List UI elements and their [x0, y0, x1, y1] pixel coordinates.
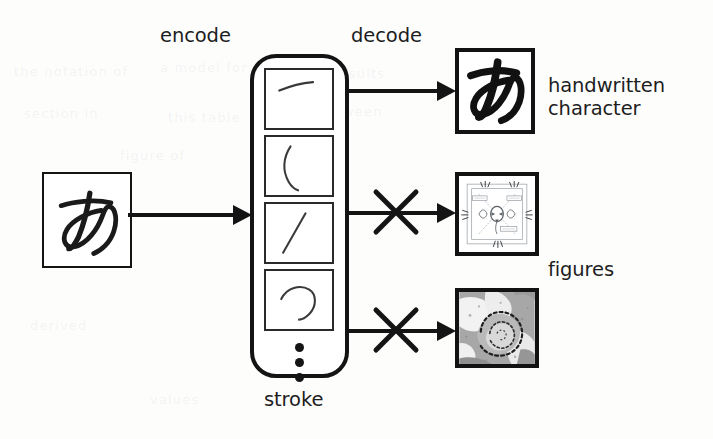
grayscale-satellite-figure	[459, 292, 535, 364]
arrow-decode-character	[346, 76, 458, 106]
bleed-text: section in	[24, 106, 99, 121]
ellipsis-dot	[295, 358, 304, 367]
bleed-text: the notation of	[14, 64, 128, 79]
schematic-diagram-figure	[459, 176, 535, 252]
stroke-1-glyph	[266, 70, 332, 128]
diagram-canvas: the notation of a model for and results …	[0, 0, 713, 439]
output-handwritten-character-box[interactable]	[455, 48, 535, 134]
stroke-4-glyph	[266, 271, 332, 329]
bleed-text: figure of	[120, 148, 185, 163]
stroke-sequence-capsule[interactable]	[250, 54, 349, 378]
handwritten-character-label: handwritten character	[548, 74, 665, 120]
ellipsis-dot	[295, 373, 304, 382]
ellipsis-dot	[295, 343, 304, 352]
stroke-2-glyph	[266, 137, 332, 195]
input-handwritten-character-box[interactable]	[42, 172, 132, 268]
stroke-3-glyph	[266, 204, 332, 262]
stroke-cell-3[interactable]	[264, 202, 334, 264]
bleed-text: a model for	[160, 60, 248, 75]
encode-label: encode	[160, 24, 231, 47]
input-hiragana-a-glyph	[44, 174, 130, 266]
bleed-text: values	[150, 392, 199, 407]
arrow-encode	[128, 200, 254, 230]
blocked-marker-satellite	[370, 304, 422, 356]
decode-label: decode	[351, 24, 422, 47]
blocked-marker-schematic	[370, 186, 422, 238]
stroke-label: stroke	[264, 388, 323, 411]
stroke-cell-4[interactable]	[264, 269, 334, 331]
figures-label: figures	[548, 258, 614, 281]
stroke-cell-2[interactable]	[264, 135, 334, 197]
output-hiragana-a-glyph	[459, 52, 531, 130]
bleed-text: this table	[168, 110, 241, 125]
output-satellite-figure-box[interactable]	[455, 288, 539, 368]
output-schematic-figure-box[interactable]	[455, 172, 539, 256]
stroke-cell-1[interactable]	[264, 68, 334, 130]
bleed-text: derived	[30, 318, 88, 333]
